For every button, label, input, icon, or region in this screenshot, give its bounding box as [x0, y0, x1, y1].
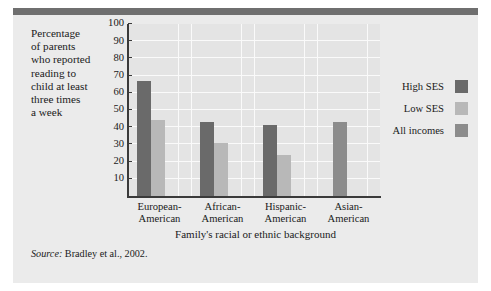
y-axis-tick-marks	[128, 24, 133, 196]
y-axis-tick-label: 70	[100, 70, 124, 81]
bar	[214, 143, 228, 196]
bar	[137, 81, 151, 196]
figure-top-rule	[13, 8, 478, 15]
x-axis-category-label: Asian- American	[309, 201, 388, 224]
y-axis-tick-label: 50	[100, 104, 124, 115]
gridline-vertical	[241, 24, 242, 196]
gridline-vertical	[254, 24, 255, 196]
chart-legend: High SESLow SESAll incomes	[382, 80, 468, 146]
y-axis-tick-label: 10	[100, 173, 124, 184]
plot-area	[128, 24, 380, 196]
y-axis-tick-mark	[128, 40, 132, 41]
legend-item-label: All incomes	[393, 125, 445, 137]
y-axis-tick-label: 60	[100, 87, 124, 98]
gridline-vertical	[317, 24, 318, 196]
bar	[200, 122, 214, 196]
gridline-vertical	[178, 24, 179, 196]
bar	[333, 122, 347, 196]
y-axis-tick-label: 40	[100, 122, 124, 133]
bar	[277, 155, 291, 196]
y-axis-tick-mark	[128, 109, 132, 110]
y-axis-tick-mark	[128, 126, 132, 127]
gridline-vertical	[191, 24, 192, 196]
legend-item: All incomes	[382, 124, 468, 146]
y-axis-tick-mark	[128, 92, 132, 93]
y-axis-tick-label: 20	[100, 156, 124, 167]
legend-item-label: Low SES	[404, 103, 444, 115]
y-axis-tick-mark	[128, 161, 132, 162]
y-axis-tick-mark	[128, 143, 132, 144]
legend-color-swatch	[455, 124, 468, 137]
legend-item-label: High SES	[402, 81, 444, 93]
y-axis-tick-label: 90	[100, 36, 124, 47]
y-axis-tick-label: 100	[100, 18, 124, 29]
y-axis-tick-labels: 102030405060708090100	[96, 24, 124, 196]
x-axis-title: Family's racial or ethnic background	[113, 228, 398, 240]
source-label: Source:	[31, 248, 62, 259]
legend-color-swatch	[455, 102, 468, 115]
y-axis-tick-mark	[128, 23, 132, 24]
gridline-vertical	[367, 24, 368, 196]
y-axis-tick-mark	[128, 178, 132, 179]
source-note: Source: Bradley et al., 2002.	[31, 248, 147, 259]
y-axis-tick-mark	[128, 57, 132, 58]
bar	[263, 125, 277, 196]
y-axis-tick-mark	[128, 75, 132, 76]
bar	[151, 120, 165, 196]
y-axis-tick-label: 80	[100, 53, 124, 64]
legend-item: High SES	[382, 80, 468, 102]
legend-color-swatch	[455, 80, 468, 93]
x-axis-line	[127, 196, 381, 198]
source-text: Bradley et al., 2002.	[62, 248, 147, 259]
gridline-vertical	[304, 24, 305, 196]
y-axis-tick-label: 30	[100, 139, 124, 150]
legend-item: Low SES	[382, 102, 468, 124]
plot-wrapper	[128, 24, 380, 196]
